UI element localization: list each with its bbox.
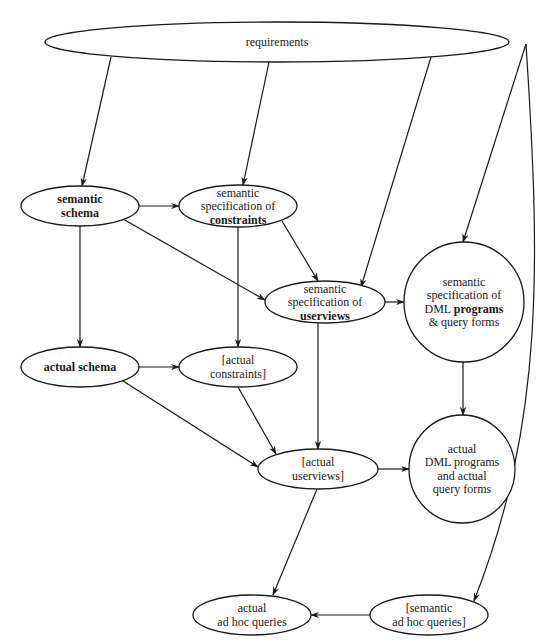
node-label-line: specification of bbox=[288, 295, 362, 309]
label-segment: ad hoc queries] bbox=[392, 615, 465, 629]
label-segment: specification of bbox=[201, 199, 275, 213]
node-label-line: semantic bbox=[217, 186, 260, 200]
node-label-line: ad hoc queries bbox=[217, 615, 287, 629]
node-label-line: semantic bbox=[443, 275, 486, 289]
node-label-line: schema bbox=[61, 206, 99, 220]
label-segment: [actual bbox=[222, 353, 255, 367]
edge-semantic-spec-constraints-to-semantic-spec-userviews bbox=[282, 221, 318, 281]
label-segment: semantic bbox=[57, 192, 103, 206]
label-segment: & query forms bbox=[429, 315, 500, 329]
node-semantic-adhoc-queries: [semanticad hoc queries] bbox=[370, 595, 488, 635]
label-segment: [semantic bbox=[406, 601, 453, 615]
node-label-line: [actual bbox=[302, 455, 335, 469]
label-segment: semantic bbox=[443, 275, 486, 289]
edge-requirements-to-semantic-spec-constraints bbox=[243, 62, 269, 185]
node-label-line: query forms bbox=[433, 482, 492, 496]
node-label-line: constraints] bbox=[210, 367, 266, 381]
label-segment: semantic bbox=[217, 186, 260, 200]
label-segment: programs bbox=[454, 302, 504, 316]
label-segment: actual schema bbox=[44, 360, 116, 374]
node-actual-userviews: [actualuserviews] bbox=[258, 449, 378, 489]
node-label-line: actual bbox=[238, 601, 267, 615]
node-label-line: constraints bbox=[210, 213, 267, 227]
edge-requirements-to-semantic-schema bbox=[82, 57, 111, 186]
edge-requirements-to-semantic-spec-dml-programs bbox=[463, 44, 526, 242]
node-label-line: specification of bbox=[427, 288, 501, 302]
requirements-flow-diagram: requirementssemanticschemasemanticspecif… bbox=[0, 0, 553, 644]
node-label-line: userviews] bbox=[292, 469, 344, 483]
node-label-line: [semantic bbox=[406, 601, 453, 615]
node-semantic-spec-dml-programs: semanticspecification ofDML programs& qu… bbox=[404, 242, 524, 362]
edge-actual-schema-to-actual-userviews bbox=[123, 381, 258, 467]
label-segment: [actual bbox=[302, 455, 335, 469]
node-label-line: specification of bbox=[201, 199, 275, 213]
edge-semantic-schema-to-semantic-spec-userviews bbox=[123, 219, 265, 300]
label-segment: DML programs bbox=[425, 455, 500, 469]
label-segment: requirements bbox=[246, 35, 309, 49]
node-label-line: DML programs bbox=[425, 455, 500, 469]
label-segment: userviews bbox=[300, 309, 350, 323]
node-label-line: DML programs bbox=[424, 302, 503, 316]
node-requirements: requirements bbox=[45, 22, 509, 62]
edge-requirements-to-semantic-spec-userviews bbox=[361, 57, 431, 287]
node-label-line: semantic bbox=[304, 282, 347, 296]
node-actual-adhoc-queries: actualad hoc queries bbox=[193, 595, 311, 635]
node-actual-dml-programs: actualDML programsand actualquery forms bbox=[409, 415, 515, 523]
label-segment: semantic bbox=[304, 282, 347, 296]
edge-actual-userviews-to-actual-adhoc-queries bbox=[273, 489, 317, 595]
label-segment: specification of bbox=[288, 295, 362, 309]
node-label-line: actual bbox=[448, 442, 477, 456]
label-segment: specification of bbox=[427, 288, 501, 302]
label-segment: schema bbox=[61, 206, 99, 220]
label-segment: actual bbox=[448, 442, 477, 456]
label-segment: ad hoc queries bbox=[217, 615, 287, 629]
node-label-line: requirements bbox=[246, 35, 309, 49]
label-segment: actual bbox=[238, 601, 267, 615]
node-actual-schema: actual schema bbox=[21, 347, 139, 387]
label-segment: constraints] bbox=[210, 367, 266, 381]
node-label-line: and actual bbox=[438, 469, 488, 483]
node-label-line: ad hoc queries] bbox=[392, 615, 465, 629]
node-actual-constraints: [actualconstraints] bbox=[179, 347, 297, 387]
label-segment: constraints bbox=[210, 213, 267, 227]
node-semantic-spec-constraints: semanticspecification ofconstraints bbox=[179, 185, 297, 227]
label-segment: userviews] bbox=[292, 469, 344, 483]
node-label-line: [actual bbox=[222, 353, 255, 367]
node-semantic-schema: semanticschema bbox=[21, 186, 139, 226]
node-label-line: actual schema bbox=[44, 360, 116, 374]
node-label-line: semantic bbox=[57, 192, 103, 206]
edge-actual-constraints-to-actual-userviews bbox=[238, 387, 276, 454]
label-segment: and actual bbox=[438, 469, 488, 483]
label-segment: DML bbox=[424, 302, 453, 316]
node-label-line: & query forms bbox=[429, 315, 500, 329]
node-semantic-spec-userviews: semanticspecification ofuserviews bbox=[265, 281, 385, 323]
nodes-layer: requirementssemanticschemasemanticspecif… bbox=[21, 22, 524, 635]
node-label-line: userviews bbox=[300, 309, 350, 323]
label-segment: query forms bbox=[433, 482, 492, 496]
